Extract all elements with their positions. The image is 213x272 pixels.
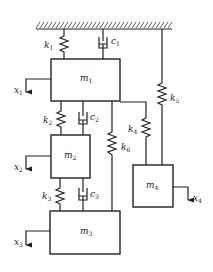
label-k4: k4 — [128, 124, 137, 135]
ground-support — [36, 22, 172, 29]
spring-k1: k1 — [44, 29, 68, 59]
damper-c2: c2 — [79, 101, 99, 135]
displacement-x2: x2 — [14, 156, 51, 173]
displacement-x4: x4 — [173, 187, 202, 204]
label-c2: c2 — [90, 112, 99, 123]
label-k3: k3 — [42, 191, 51, 202]
spring-k5: k5 — [158, 29, 179, 165]
label-k6: k6 — [121, 142, 130, 153]
label-k1: k1 — [44, 40, 53, 51]
spring-k3: k3 — [42, 178, 64, 211]
label-c1: c1 — [111, 36, 120, 47]
ground-hatching — [36, 22, 172, 28]
label-x4: x4 — [193, 193, 202, 204]
label-c3: c3 — [90, 189, 99, 200]
label-x1: x1 — [14, 85, 23, 96]
mass-m4: m4 — [133, 165, 173, 207]
spring-k6: k6 — [108, 101, 130, 211]
mass-m2: m2 — [51, 135, 90, 178]
spring-k4: k4 — [128, 118, 150, 165]
label-k2: k2 — [43, 115, 52, 126]
displacement-x3: x3 — [14, 231, 50, 248]
label-x3: x3 — [14, 237, 23, 248]
m1-k4-link — [120, 102, 146, 118]
mass-m3: m3 — [50, 211, 120, 254]
label-k5: k5 — [170, 93, 179, 104]
displacement-x1: x1 — [14, 79, 51, 96]
damper-c1: c1 — [99, 29, 120, 59]
label-x2: x2 — [14, 162, 23, 173]
mass-m1: m1 — [51, 59, 120, 101]
damper-c3: c3 — [79, 178, 99, 211]
spring-k2: k2 — [43, 101, 65, 135]
